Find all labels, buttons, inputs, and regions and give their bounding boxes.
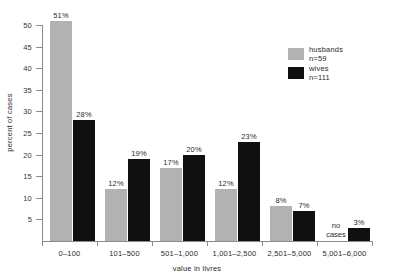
bar-group: 12%23% [207, 25, 262, 241]
bar-wives [238, 142, 260, 241]
bar-wives [128, 159, 150, 241]
legend-count-wives: n=111 [309, 74, 330, 83]
x-tick [317, 241, 318, 246]
bar-husbands [160, 168, 182, 241]
y-tick-label: 40 [0, 64, 32, 73]
x-tick [42, 241, 43, 246]
bar-husbands [270, 206, 292, 241]
y-tick-label: 15 [0, 172, 32, 181]
bar-wives [73, 120, 95, 241]
bar-group: 17%20% [152, 25, 207, 241]
x-tick [152, 241, 153, 246]
y-tick-label: 10 [0, 194, 32, 203]
y-tick-label: 45 [0, 43, 32, 52]
x-tick [207, 241, 208, 246]
y-axis-title: percent of cases [5, 78, 14, 168]
legend-swatch-husbands [288, 48, 304, 60]
legend-name-wives: wives [309, 64, 329, 73]
bar-husbands [50, 21, 72, 241]
legend-label-wives: wives n=111 [309, 65, 330, 82]
legend-swatch-wives [288, 67, 304, 79]
y-tick-label: 5 [0, 215, 32, 224]
bar-wives [348, 228, 370, 241]
legend-label-husbands: husbands n=59 [309, 46, 343, 63]
bar-wives [293, 211, 315, 241]
x-tick [262, 241, 263, 246]
x-category-label: 5,001–6,000 [300, 249, 390, 258]
bar-husbands [215, 189, 237, 241]
x-tick [97, 241, 98, 246]
bar-husbands [105, 189, 127, 241]
bar-group: 12%19% [97, 25, 152, 241]
bar-value-label: 3% [339, 218, 379, 227]
x-tick [372, 241, 373, 246]
bar-chart: 5101520253035404550 51%28%12%19%17%20%12… [0, 0, 394, 279]
legend-count-husbands: n=59 [309, 55, 343, 64]
bar-value-label: 51% [41, 11, 81, 20]
bar-group: 51%28% [42, 25, 97, 241]
x-axis-title: value in livres [0, 264, 394, 273]
legend-name-husbands: husbands [309, 45, 343, 54]
y-tick-label: 50 [0, 21, 32, 30]
bar-wives [183, 155, 205, 241]
